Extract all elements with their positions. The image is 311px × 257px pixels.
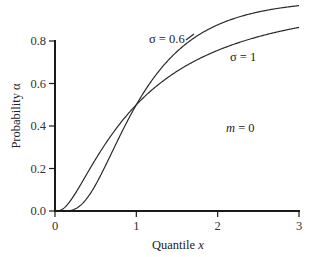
x-tick-label: 1 xyxy=(133,219,139,233)
y-tick-label: 0.6 xyxy=(30,77,46,91)
series-label-sigma-0.6: σ = 0.6 xyxy=(149,32,185,46)
x-axis-label-text: Quantile xyxy=(152,238,195,252)
y-ticks: 0.00.20.40.60.8 xyxy=(30,34,55,218)
chart: 0.00.20.40.60.8 0123 σ = 0.6 σ = 1 m = 0… xyxy=(0,0,311,257)
x-axis-label-var: x xyxy=(197,238,204,252)
annotation-m: m = 0 xyxy=(226,121,255,135)
series-line-sigma-1 xyxy=(55,27,299,211)
x-axis-label: Quantile x xyxy=(152,238,204,252)
y-tick-label: 0.2 xyxy=(30,162,46,176)
annotation-m-var: m xyxy=(226,121,235,135)
x-tick-label: 0 xyxy=(52,219,58,233)
x-tick-label: 2 xyxy=(215,219,221,233)
y-tick-label: 0.4 xyxy=(30,119,46,133)
x-ticks: 0123 xyxy=(52,211,302,233)
y-axis-label: Probability α xyxy=(9,83,23,149)
annotation-m-value: = 0 xyxy=(235,121,255,135)
y-tick-label: 0.8 xyxy=(30,34,46,48)
y-tick-label: 0.0 xyxy=(30,204,46,218)
x-tick-label: 3 xyxy=(296,219,302,233)
series-label-sigma-1: σ = 1 xyxy=(230,50,256,64)
